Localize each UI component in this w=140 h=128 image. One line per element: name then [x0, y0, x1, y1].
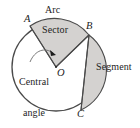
arc-label: Arc	[45, 5, 60, 15]
point-label-b: B	[86, 21, 93, 32]
segment-label: Segment	[96, 62, 132, 72]
central-angle-label-line2: angle	[9, 108, 59, 118]
central-angle-label: Central angle	[9, 57, 59, 128]
point-label-a: A	[24, 14, 31, 25]
circle-parts-figure: A B C O Arc Sector Segment Central angle	[0, 0, 140, 128]
sector-label: Sector	[42, 25, 68, 35]
central-angle-label-line1: Central	[9, 77, 59, 87]
point-label-c: C	[77, 109, 84, 120]
